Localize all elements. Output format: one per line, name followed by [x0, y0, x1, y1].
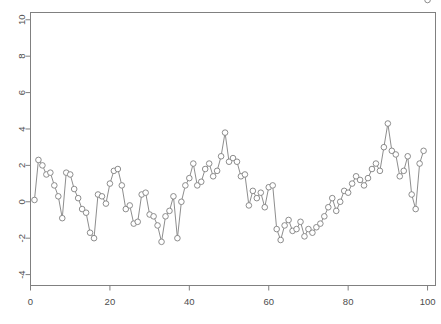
data-point: [190, 161, 196, 167]
data-point: [250, 188, 256, 194]
data-point: [159, 239, 165, 245]
data-point: [206, 161, 212, 167]
data-point: [119, 183, 125, 189]
data-point: [59, 215, 65, 221]
data-point: [246, 203, 252, 209]
data-point: [155, 223, 161, 229]
data-point: [103, 201, 109, 207]
data-point: [274, 226, 280, 232]
data-point: [87, 230, 93, 236]
data-point: [135, 219, 141, 225]
data-point: [40, 163, 46, 169]
data-point: [298, 219, 304, 225]
data-point: [373, 161, 379, 167]
data-point: [282, 223, 288, 229]
data-point: [143, 190, 149, 196]
x-tick-label: 100: [420, 296, 436, 307]
data-point: [214, 168, 220, 174]
data-point: [115, 166, 121, 172]
data-point: [83, 210, 89, 216]
data-point: [52, 183, 58, 189]
data-point: [151, 214, 157, 220]
data-point: [32, 197, 38, 203]
data-point: [48, 170, 54, 176]
data-point: [270, 183, 276, 189]
y-tick-label: -4: [16, 270, 27, 278]
y-tick-label: 8: [16, 54, 27, 59]
data-point: [187, 175, 193, 181]
x-tick-label: 60: [263, 296, 274, 307]
y-tick-label: 6: [16, 90, 27, 95]
data-point: [425, 0, 431, 3]
data-point: [365, 175, 371, 181]
data-point: [329, 195, 335, 201]
data-point: [421, 148, 427, 154]
data-point: [397, 174, 403, 180]
data-point: [210, 174, 216, 180]
data-point: [258, 190, 264, 196]
data-point: [198, 179, 204, 185]
data-point: [71, 186, 77, 192]
y-tick-label: 0: [16, 199, 27, 204]
data-point: [310, 230, 316, 236]
data-point: [318, 221, 324, 227]
data-point: [222, 130, 228, 136]
data-point: [218, 153, 224, 159]
data-point: [99, 194, 105, 200]
data-point: [107, 181, 113, 187]
data-point: [409, 192, 415, 198]
data-point: [36, 157, 42, 163]
x-tick-label: 80: [343, 296, 354, 307]
data-point: [345, 190, 351, 196]
data-point: [75, 195, 81, 201]
data-point: [254, 195, 260, 201]
data-point: [361, 183, 367, 189]
data-point: [405, 153, 411, 159]
data-point: [67, 172, 73, 178]
data-point: [337, 199, 343, 205]
data-point: [413, 206, 419, 212]
data-point: [175, 235, 181, 241]
x-tick-label: 20: [105, 296, 116, 307]
data-point: [369, 166, 375, 172]
data-point: [325, 204, 331, 210]
y-tick-label: 10: [16, 14, 27, 25]
data-point: [242, 172, 248, 178]
data-point: [393, 152, 399, 158]
data-point: [417, 161, 423, 167]
data-point: [202, 166, 208, 172]
data-point: [55, 194, 61, 200]
data-point: [294, 226, 300, 232]
chart-svg: -4-20246810020406080100: [0, 0, 441, 324]
plot-canvas: -4-20246810020406080100: [0, 0, 441, 324]
data-point: [262, 204, 268, 210]
data-point: [167, 208, 173, 214]
data-point: [183, 183, 189, 189]
data-point: [91, 235, 97, 241]
data-point: [179, 199, 185, 205]
data-point: [171, 194, 177, 200]
y-tick-label: 2: [16, 163, 27, 168]
data-point: [401, 168, 407, 174]
data-point: [333, 208, 339, 214]
x-tick-label: 40: [184, 296, 195, 307]
data-point: [357, 177, 363, 183]
data-point: [127, 203, 133, 209]
data-point: [349, 181, 355, 187]
y-tick-label: 4: [16, 126, 27, 131]
data-point: [163, 214, 169, 220]
data-point: [381, 144, 387, 150]
data-point: [278, 237, 284, 243]
data-point: [385, 121, 391, 127]
data-point: [234, 159, 240, 165]
data-point: [322, 214, 328, 220]
x-tick-label: 0: [28, 296, 33, 307]
plot-frame: [31, 13, 436, 286]
data-point: [286, 217, 292, 223]
data-point: [377, 168, 383, 174]
y-tick-label: -2: [16, 234, 27, 242]
data-point: [302, 234, 308, 240]
